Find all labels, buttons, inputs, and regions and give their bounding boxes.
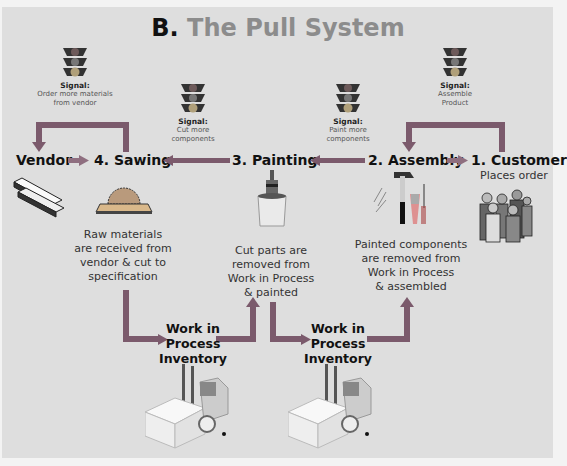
forklift-icon [145, 362, 235, 450]
saw-icon [94, 182, 154, 216]
flow-wip2-up [404, 306, 410, 342]
node-sawing: 4. Sawing [94, 152, 171, 168]
loop-customer-right [499, 122, 505, 152]
flow-to-wip2 [270, 336, 302, 342]
node-customer: 1. Customer [471, 152, 567, 168]
flow-sawing-down [123, 290, 129, 342]
flow-to-wip1 [123, 336, 159, 342]
tools-icon [372, 172, 432, 230]
paint-bucket-icon [254, 170, 294, 230]
signal-cut-components: Signal:Cut morecomponents [150, 117, 236, 144]
arrowhead-up-icon [400, 297, 414, 307]
wip-inventory-1: Work inProcessInventory [158, 321, 228, 366]
loop-customer-left [406, 122, 412, 144]
arrow-right-icon [79, 155, 89, 166]
traffic-light-icon [60, 44, 90, 80]
title-text: The Pull System [187, 14, 405, 42]
customers-icon [476, 186, 536, 244]
loop-customer-top [406, 122, 505, 128]
signal-assemble-product: Signal:AssembleProduct [412, 81, 498, 108]
arrow-painting-sawing [172, 158, 230, 163]
arrowhead-up-icon [246, 297, 260, 307]
loop-vendor-top [36, 122, 129, 128]
desc-sawing: Raw materialsare received fromvendor & c… [68, 228, 178, 284]
desc-painting: Cut parts areremoved fromWork in Process… [216, 244, 326, 300]
traffic-light-icon [178, 80, 208, 116]
arrow-right-icon [458, 155, 468, 166]
forklift-icon [288, 362, 378, 450]
loop-vendor-right [123, 122, 129, 152]
desc-assembly: Painted componentsare removed fromWork i… [346, 238, 476, 294]
node-vendor: Vendor [16, 152, 72, 168]
arrow-assembly-painting [319, 158, 365, 163]
signal-paint-components: Signal:Paint morecomponents [305, 117, 391, 144]
diagram-title: B. The Pull System [0, 14, 556, 42]
signal-order-materials: Signal:Order more materialsfrom vendor [20, 81, 130, 108]
flow-wip1-up [250, 306, 256, 342]
customer-subtitle: Places order [480, 169, 548, 182]
arrowhead-down-icon [32, 142, 46, 152]
loop-vendor-left [36, 122, 42, 144]
arrowhead-down-icon [402, 142, 416, 152]
title-prefix: B. [151, 14, 178, 42]
wip-inventory-2: Work inProcessInventory [303, 321, 373, 366]
traffic-light-icon [440, 44, 470, 80]
traffic-light-icon [333, 80, 363, 116]
node-painting: 3. Painting [232, 152, 318, 168]
lumber-icon [12, 174, 66, 220]
